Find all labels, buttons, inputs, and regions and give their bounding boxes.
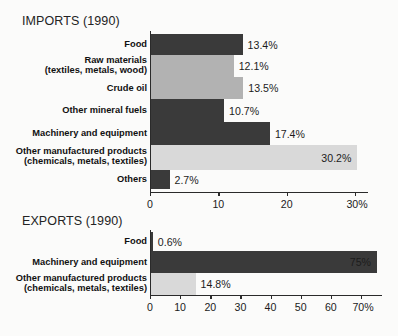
imports-row-label-line1: Others (117, 174, 147, 184)
imports-axis-label: 30% (346, 198, 367, 210)
exports-row-label-line1: Machinery and equipment (32, 257, 147, 267)
exports-axis-label: 20 (204, 301, 216, 313)
exports-plot-area: Food 0.6% Machinery and equipment 75% Ot… (150, 230, 383, 295)
imports-row-other-mineral-fuels: Other mineral fuels 10.7% (151, 99, 379, 122)
exports-row-label: Food (124, 236, 147, 246)
imports-row-label: Other manufactured products (chemicals, … (16, 146, 147, 167)
imports-row-label-line1: Raw materials (45, 55, 147, 65)
exports-row-label-line2: (chemicals, metals, textiles) (16, 283, 147, 293)
exports-axis-tick (301, 295, 302, 299)
imports-bar-other-mineral-fuels (151, 99, 224, 122)
exports-value-other-manufactured: 14.8% (201, 278, 231, 290)
exports-axis-tick (240, 295, 241, 299)
imports-row-others: Others 2.7% (151, 170, 379, 189)
exports-row-other-manufactured: Other manufactured products (chemicals, … (151, 273, 383, 295)
imports-x-axis: 0 10 20 30% (150, 192, 368, 193)
imports-plot-area: Food 13.4% Raw materials (textiles, meta… (150, 31, 379, 192)
exports-axis-label: 30 (234, 301, 246, 313)
exports-row-food: Food 0.6% (151, 232, 383, 251)
exports-axis-tick (180, 295, 181, 299)
imports-axis-tick (150, 192, 151, 196)
imports-axis-label: 10 (212, 198, 224, 210)
exports-axis-tick (331, 295, 332, 299)
imports-axis-label: 0 (147, 198, 153, 210)
exports-bar-food (151, 232, 153, 251)
imports-bar-machinery (151, 122, 270, 145)
imports-chart-title: IMPORTS (1990) (22, 14, 120, 28)
imports-row-raw-materials: Raw materials (textiles, metals, wood) 1… (151, 55, 379, 77)
imports-row-label: Other mineral fuels (62, 105, 147, 115)
exports-axis-label: 0 (147, 301, 153, 313)
imports-row-label: Raw materials (textiles, metals, wood) (45, 55, 147, 76)
imports-row-label-line1: Machinery and equipment (32, 128, 147, 138)
exports-axis-label: 60 (325, 301, 337, 313)
exports-bar-machinery (151, 251, 377, 273)
exports-value-food: 0.6% (158, 236, 182, 248)
imports-bar-crude-oil (151, 77, 243, 99)
imports-row-label-line2: (textiles, metals, wood) (45, 65, 147, 75)
imports-axis-label: 20 (281, 198, 293, 210)
imports-row-machinery: Machinery and equipment 17.4% (151, 122, 379, 145)
exports-bar-other-manufactured (151, 273, 196, 295)
imports-row-label-line1: Crude oil (107, 83, 147, 93)
exports-axis-label: 40 (265, 301, 277, 313)
exports-axis-label: 70% (352, 301, 373, 313)
imports-row-label-line1: Food (124, 39, 147, 49)
exports-chart-title: EXPORTS (1990) (22, 214, 123, 228)
imports-row-label: Crude oil (107, 83, 147, 93)
imports-row-label: Others (117, 174, 147, 184)
imports-bar-food (151, 34, 243, 55)
exports-axis-tick (150, 295, 151, 299)
exports-value-machinery: 75% (350, 256, 371, 268)
imports-row-label: Food (124, 39, 147, 49)
imports-axis-tick (287, 192, 288, 196)
imports-value-crude-oil: 13.5% (248, 82, 278, 94)
exports-axis-label: 10 (174, 301, 186, 313)
imports-axis-tick (218, 192, 219, 196)
exports-axis-label: 50 (295, 301, 307, 313)
imports-bar-others (151, 170, 170, 189)
imports-axis-tick (355, 192, 356, 196)
exports-row-machinery: Machinery and equipment 75% (151, 251, 383, 273)
exports-row-label-line1: Other manufactured products (16, 273, 147, 283)
imports-value-other-manufactured: 30.2% (321, 152, 351, 164)
exports-row-label-line1: Food (124, 236, 147, 246)
imports-value-raw-materials: 12.1% (239, 60, 269, 72)
imports-row-food: Food 13.4% (151, 34, 379, 55)
imports-value-food: 13.4% (248, 39, 278, 51)
exports-x-axis: 0 10 20 30 40 50 60 70% (150, 295, 382, 296)
exports-axis-tick (210, 295, 211, 299)
exports-axis-tick (361, 295, 362, 299)
imports-value-others: 2.7% (175, 174, 199, 186)
imports-row-label-line1: Other manufactured products (16, 146, 147, 156)
imports-bar-raw-materials (151, 55, 234, 77)
imports-row-label-line2: (chemicals, metals, textiles) (16, 156, 147, 166)
imports-row-crude-oil: Crude oil 13.5% (151, 77, 379, 99)
exports-row-label: Other manufactured products (chemicals, … (16, 273, 147, 294)
chart-page: IMPORTS (1990) Food 13.4% Raw materials … (0, 0, 398, 336)
imports-value-other-mineral-fuels: 10.7% (229, 105, 259, 117)
exports-axis-tick (271, 295, 272, 299)
imports-row-other-manufactured: Other manufactured products (chemicals, … (151, 145, 379, 170)
imports-row-label: Machinery and equipment (32, 128, 147, 138)
imports-value-machinery: 17.4% (275, 128, 305, 140)
imports-row-label-line1: Other mineral fuels (62, 105, 147, 115)
exports-row-label: Machinery and equipment (32, 257, 147, 267)
